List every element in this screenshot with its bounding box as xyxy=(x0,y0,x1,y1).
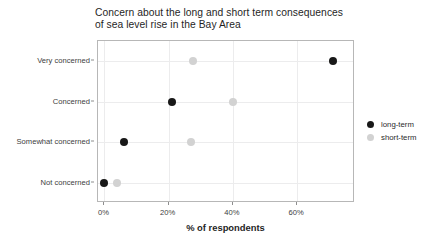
grid-line-horizontal xyxy=(98,102,353,103)
grid-line-vertical xyxy=(104,41,105,201)
grid-line-horizontal xyxy=(98,61,353,62)
x-axis-tick xyxy=(296,202,297,205)
y-axis-label: Very concerned xyxy=(37,56,90,65)
data-point xyxy=(187,138,195,146)
y-axis-tick xyxy=(91,141,94,142)
data-point xyxy=(113,179,121,187)
y-axis-tick xyxy=(91,60,94,61)
y-axis-label: Somewhat concerned xyxy=(17,137,90,146)
x-axis: 0%20%40%60% xyxy=(97,202,354,224)
x-axis-title: % of respondents xyxy=(97,222,354,233)
x-axis-tick xyxy=(168,202,169,205)
legend-swatch-icon xyxy=(367,121,374,128)
grid-line-vertical xyxy=(169,41,170,201)
data-point xyxy=(189,57,197,65)
y-axis-label: Concerned xyxy=(53,96,90,105)
legend-label: long-term xyxy=(381,120,414,129)
x-axis-label: 0% xyxy=(98,208,109,217)
data-point xyxy=(100,179,108,187)
x-axis-label: 60% xyxy=(289,208,304,217)
grid-line-vertical xyxy=(297,41,298,201)
data-point xyxy=(329,57,337,65)
plot-panel xyxy=(97,40,354,202)
y-axis-tick xyxy=(91,100,94,101)
x-axis-label: 20% xyxy=(160,208,175,217)
x-axis-tick xyxy=(103,202,104,205)
x-axis-tick xyxy=(232,202,233,205)
chart-legend: long-termshort-term xyxy=(364,118,436,144)
grid-line-horizontal xyxy=(98,183,353,184)
y-axis: Very concernedConcernedSomewhat concerne… xyxy=(0,40,90,202)
data-point xyxy=(120,138,128,146)
data-point xyxy=(229,98,237,106)
legend-swatch-icon xyxy=(367,134,374,141)
y-axis-label: Not concerned xyxy=(41,177,90,186)
grid-line-horizontal xyxy=(98,142,353,143)
x-axis-label: 40% xyxy=(224,208,239,217)
legend-item[interactable]: short-term xyxy=(364,131,436,144)
chart-figure: Concern about the long and short term co… xyxy=(0,0,438,241)
chart-title: Concern about the long and short term co… xyxy=(95,7,395,32)
legend-item[interactable]: long-term xyxy=(364,118,436,131)
data-point xyxy=(168,98,176,106)
legend-label: short-term xyxy=(381,133,417,142)
grid-line-vertical xyxy=(233,41,234,201)
y-axis-tick xyxy=(91,181,94,182)
